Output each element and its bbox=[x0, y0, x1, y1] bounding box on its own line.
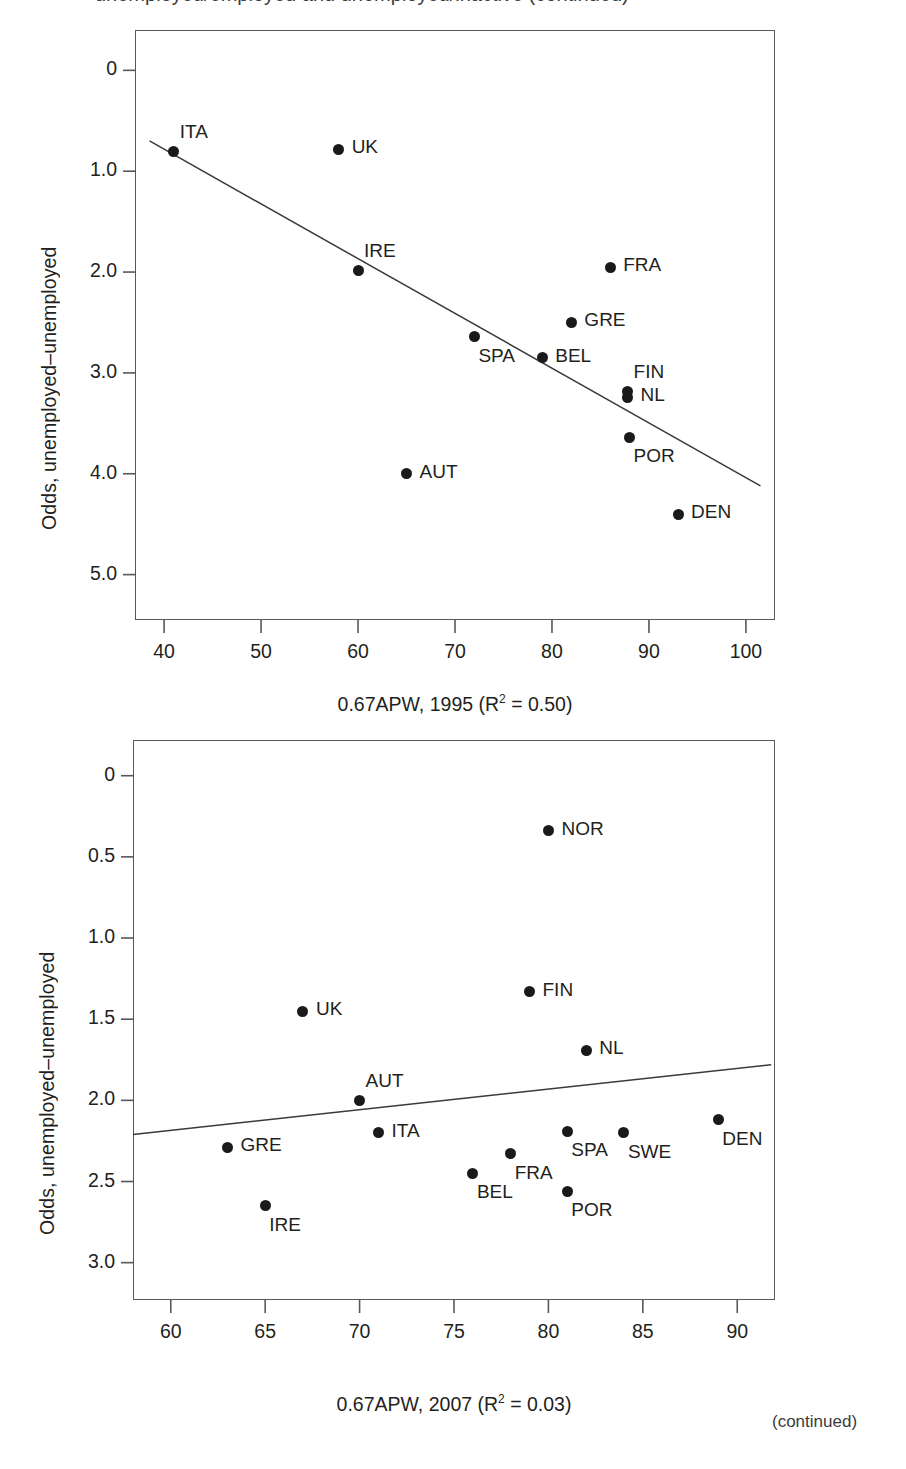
x-tick-label: 65 bbox=[225, 1320, 305, 1343]
point-label-por: POR bbox=[634, 445, 675, 467]
y-tick-label: 0 bbox=[45, 57, 117, 80]
point-label-aut: AUT bbox=[366, 1070, 404, 1092]
point-label-bel: BEL bbox=[477, 1181, 513, 1203]
point-label-spa: SPA bbox=[571, 1139, 608, 1161]
data-point-den bbox=[673, 509, 684, 520]
point-label-ire: IRE bbox=[364, 240, 396, 262]
x-tick-label: 100 bbox=[706, 640, 786, 663]
point-label-por: POR bbox=[571, 1199, 612, 1221]
point-label-nl: NL bbox=[641, 384, 665, 406]
point-label-uk: UK bbox=[316, 998, 342, 1020]
point-label-den: DEN bbox=[722, 1128, 762, 1150]
y-tick-label: 0.5 bbox=[43, 844, 115, 867]
x-tick-label: 90 bbox=[697, 1320, 777, 1343]
data-point-ita bbox=[168, 146, 179, 157]
x-axis-title-2007: 0.67APW, 2007 (R2 = 0.03) bbox=[133, 1392, 775, 1416]
data-point-ire bbox=[260, 1200, 271, 1211]
y-tick-label: 4.0 bbox=[45, 461, 117, 484]
continued-note: (continued) bbox=[772, 1412, 857, 1432]
point-label-bel: BEL bbox=[555, 345, 591, 367]
x-tick-label: 60 bbox=[131, 1320, 211, 1343]
point-label-nl: NL bbox=[599, 1037, 623, 1059]
data-point-spa bbox=[562, 1126, 573, 1137]
point-label-ire: IRE bbox=[269, 1214, 301, 1236]
figure-scatter-panels: unemployed/employed and unemployed/inact… bbox=[0, 0, 906, 1469]
point-label-den: DEN bbox=[691, 501, 731, 523]
x-tick-label: 80 bbox=[512, 640, 592, 663]
y-tick-label: 1.5 bbox=[43, 1006, 115, 1029]
chart-2007: Odds, unemployed–unemployed 0.67APW, 200… bbox=[0, 730, 906, 1430]
point-label-fin: FIN bbox=[634, 361, 665, 383]
data-point-por bbox=[562, 1186, 573, 1197]
data-point-nl bbox=[581, 1045, 592, 1056]
y-tick-label: 1.0 bbox=[45, 158, 117, 181]
point-label-fra: FRA bbox=[515, 1162, 553, 1184]
y-tick-label: 2.0 bbox=[43, 1087, 115, 1110]
y-tick-label: 3.0 bbox=[43, 1250, 115, 1273]
x-tick-label: 40 bbox=[124, 640, 204, 663]
data-point-gre bbox=[566, 317, 577, 328]
data-point-por bbox=[624, 432, 635, 443]
data-point-bel bbox=[537, 352, 548, 363]
y-tick-label: 1.0 bbox=[43, 925, 115, 948]
x-tick-label: 75 bbox=[414, 1320, 494, 1343]
point-label-fra: FRA bbox=[623, 254, 661, 276]
x-tick-label: 60 bbox=[318, 640, 398, 663]
x-tick-label: 80 bbox=[508, 1320, 588, 1343]
data-point-gre bbox=[222, 1142, 233, 1153]
x-tick-label: 70 bbox=[320, 1320, 400, 1343]
data-point-aut bbox=[354, 1095, 365, 1106]
chart-1995: Odds, unemployed–unemployed 0.67APW, 199… bbox=[0, 0, 906, 720]
x-tick-label: 85 bbox=[603, 1320, 683, 1343]
point-label-spa: SPA bbox=[478, 345, 515, 367]
x-tick-label: 50 bbox=[221, 640, 301, 663]
y-tick-label: 5.0 bbox=[45, 562, 117, 585]
x-tick-label: 90 bbox=[609, 640, 689, 663]
y-tick-label: 2.5 bbox=[43, 1169, 115, 1192]
y-tick-label: 3.0 bbox=[45, 360, 117, 383]
data-point-nl bbox=[622, 392, 633, 403]
point-label-ita: ITA bbox=[180, 121, 208, 143]
point-label-gre: GRE bbox=[240, 1134, 281, 1156]
data-point-fra bbox=[605, 262, 616, 273]
y-tick-label: 2.0 bbox=[45, 259, 117, 282]
data-point-spa bbox=[469, 331, 480, 342]
x-tick-label: 70 bbox=[415, 640, 495, 663]
point-label-swe: SWE bbox=[628, 1141, 671, 1163]
point-label-ita: ITA bbox=[391, 1120, 419, 1142]
point-label-aut: AUT bbox=[420, 461, 458, 483]
point-label-fin: FIN bbox=[543, 979, 574, 1001]
point-label-nor: NOR bbox=[561, 818, 603, 840]
point-label-gre: GRE bbox=[584, 309, 625, 331]
point-label-uk: UK bbox=[352, 136, 378, 158]
x-axis-title-1995: 0.67APW, 1995 (R2 = 0.50) bbox=[135, 692, 775, 716]
data-point-ire bbox=[353, 265, 364, 276]
data-point-uk bbox=[297, 1006, 308, 1017]
y-tick-label: 0 bbox=[43, 763, 115, 786]
plot-svg-1995 bbox=[0, 0, 906, 720]
data-point-uk bbox=[333, 144, 344, 155]
